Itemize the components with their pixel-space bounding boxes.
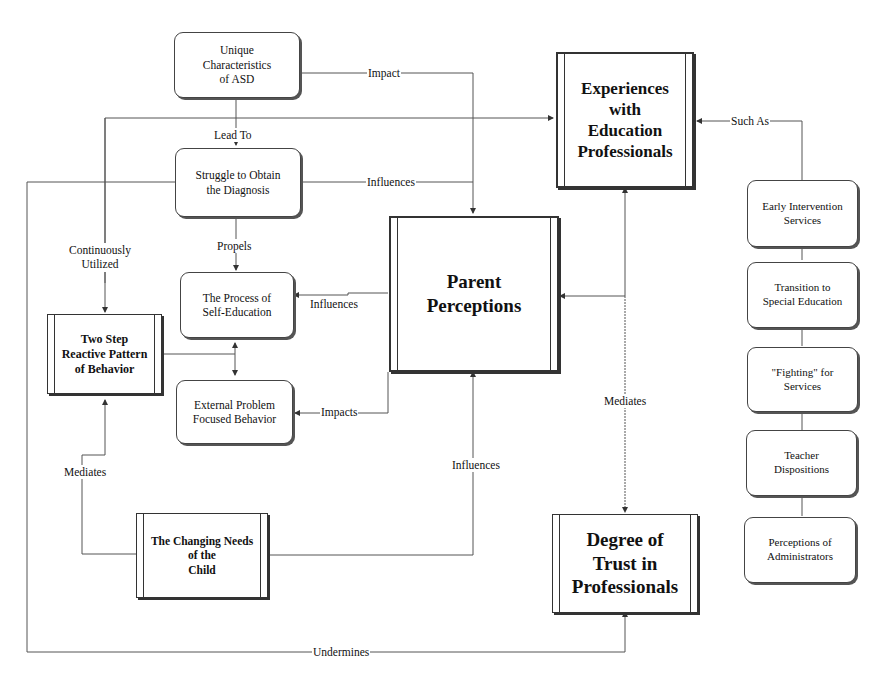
node-two-step-pattern: Two Step Reactive Pattern of Behavior — [47, 314, 162, 394]
node-changing-needs: The Changing Needs of the Child — [136, 513, 268, 598]
label-mediates-right: Mediates — [603, 394, 647, 408]
label-such-as: Such As — [730, 114, 770, 128]
label-propels: Propels — [216, 239, 253, 253]
node-teacher-dispositions: Teacher Dispositions — [746, 430, 857, 496]
label-lead-to: Lead To — [213, 128, 253, 142]
node-struggle-diagnosis: Struggle to Obtain the Diagnosis — [175, 148, 301, 217]
label-impacts-external: Impacts — [320, 405, 358, 419]
node-perceptions-admin: Perceptions of Administrators — [744, 517, 856, 583]
node-experiences-education: Experiences with Education Professionals — [556, 52, 694, 188]
label-mediates-left: Mediates — [63, 465, 107, 479]
label-undermines: Undermines — [312, 645, 370, 659]
node-fighting-services: "Fighting" for Services — [747, 347, 858, 412]
label-impact: Impact — [367, 66, 401, 80]
node-process-self-education: The Process of Self-Education — [180, 272, 294, 338]
label-continuously-utilized: Continuously Utilized — [68, 243, 132, 272]
node-parent-perceptions: Parent Perceptions — [389, 216, 559, 372]
label-influences-self-ed: Influences — [309, 297, 359, 311]
node-early-intervention: Early Intervention Services — [747, 180, 858, 247]
label-influences-struggle: Influences — [366, 175, 416, 189]
node-transition-special-ed: Transition to Special Education — [747, 262, 858, 328]
label-influences-changing: Influences — [451, 458, 501, 472]
node-degree-of-trust: Degree of Trust in Professionals — [552, 514, 698, 613]
node-external-problem: External Problem Focused Behavior — [176, 380, 293, 444]
node-unique-characteristics: Unique Characteristics of ASD — [174, 32, 300, 98]
